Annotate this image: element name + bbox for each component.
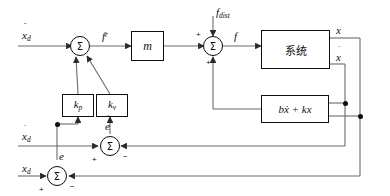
derivative-gain-block[interactable]: kv (96, 94, 128, 117)
position-error-summing-junction[interactable]: Σ (47, 166, 67, 186)
force-sum-symbol: Σ (77, 41, 83, 52)
mass-gain-block[interactable]: m (131, 31, 164, 61)
plant-input-summing-junction[interactable]: Σ (203, 36, 223, 56)
block-diagram-canvas: Σ Σ Σ Σ m kp kv 系统 bẋ + kx ¨ xd (0, 0, 390, 196)
velocity-error-summing-junction[interactable]: Σ (100, 136, 120, 156)
plant-sum-sign-bottom: + (206, 59, 211, 67)
pos-error-sign-right: − (70, 183, 75, 191)
derivative-gain-label: kv (108, 99, 116, 112)
proportional-gain-label: kp (74, 99, 83, 112)
wire-gain-p-to-force-sum (76, 57, 78, 94)
vel-error-sign-left: + (92, 156, 97, 164)
junction-dot-xdot-rail (343, 101, 348, 106)
pos-error-sign-left: + (39, 186, 44, 194)
vel-ref-label: ˙ xd (22, 131, 31, 144)
plant-sum-sign-left: + (196, 31, 201, 39)
mass-gain-label: m (143, 39, 152, 54)
pos-ref-label: xd (22, 163, 31, 176)
disturbance-label: fdist (216, 7, 230, 20)
vel-error-label: ˙ e (105, 121, 110, 132)
pos-error-label: e (59, 151, 64, 162)
wire-gain-v-to-force-sum (87, 56, 110, 94)
dynamics-feedback-label: bẋ + kx (278, 103, 311, 115)
junction-dot-x-rail (358, 114, 363, 119)
junction-dot-pos-error (55, 122, 60, 127)
plant-sum-symbol: Σ (210, 41, 216, 52)
total-force-label: f (234, 31, 237, 42)
velocity-out-label: ˙ x (336, 52, 341, 63)
position-out-label: x (336, 25, 341, 36)
plant-block[interactable]: 系统 (261, 30, 330, 69)
vel-error-sign-right: − (123, 153, 128, 161)
proportional-gain-block[interactable]: kp (62, 94, 94, 117)
vel-error-sum-symbol: Σ (107, 141, 113, 152)
dynamics-feedback-block[interactable]: bẋ + kx (261, 95, 329, 123)
accel-ref-label: ¨ xd (22, 30, 31, 43)
force-summing-junction[interactable]: Σ (70, 36, 90, 56)
pos-error-sum-symbol: Σ (54, 171, 60, 182)
command-force-label: fr (102, 31, 108, 42)
plant-block-label: 系统 (285, 42, 307, 58)
